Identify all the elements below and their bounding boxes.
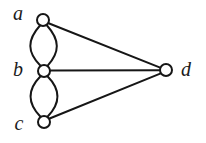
figure-canvas: a b c d: [0, 0, 206, 143]
graph-diagram: a b c d: [0, 0, 206, 143]
vertex-c: [38, 116, 50, 128]
vertex-label-d: d: [181, 58, 192, 80]
vertex-label-a: a: [13, 2, 23, 24]
vertex-a: [37, 14, 49, 26]
vertex-b: [38, 65, 50, 77]
vertex-d: [160, 64, 172, 76]
vertex-label-b: b: [13, 58, 23, 80]
vertex-label-c: c: [15, 112, 24, 134]
diagram-background: [0, 0, 206, 143]
